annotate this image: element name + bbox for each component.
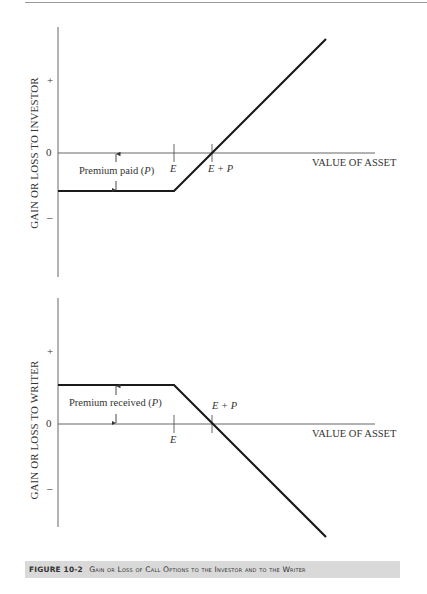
- investor-tick-plus: +: [47, 74, 53, 86]
- writer-x-axis-label: VALUE OF ASSET: [312, 428, 396, 439]
- figure-title: Gain or Loss of Call Options to the Inve…: [89, 565, 306, 574]
- writer-mark-e: E: [170, 434, 176, 445]
- investor-mark-ep: E + P: [208, 163, 233, 174]
- investor-x-axis-label: VALUE OF ASSET: [312, 157, 396, 168]
- writer-tick-plus: +: [47, 345, 53, 357]
- investor-premium-close: ): [151, 165, 155, 176]
- figure-label: FIGURE 10-2: [29, 565, 83, 574]
- writer-premium-annotation: Premium received (P): [68, 397, 163, 408]
- writer-chart: [58, 298, 375, 537]
- investor-premium-text: Premium paid (: [79, 165, 144, 176]
- writer-tick-minus: –: [47, 482, 53, 494]
- writer-y-axis-label: GAIN OR LOSS TO WRITER: [28, 345, 40, 515]
- writer-mark-ep: E + P: [212, 400, 237, 411]
- writer-premium-close: ): [158, 397, 162, 408]
- investor-premium-annotation: Premium paid (P): [78, 165, 155, 176]
- figure-caption: FIGURE 10-2 Gain or Loss of Call Options…: [25, 561, 400, 578]
- payoff-charts: [0, 0, 427, 594]
- investor-chart: [58, 27, 375, 277]
- writer-tick-zero: 0: [46, 417, 52, 429]
- investor-mark-e: E: [170, 163, 176, 174]
- writer-premium-text: Premium received (: [69, 397, 152, 408]
- investor-tick-minus: –: [47, 211, 53, 223]
- investor-y-axis-label: GAIN OR LOSS TO INVESTOR: [28, 68, 40, 238]
- investor-tick-zero: 0: [46, 146, 52, 158]
